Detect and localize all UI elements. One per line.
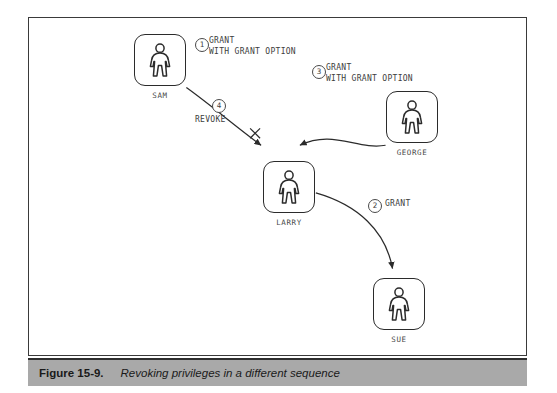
edge-label-george-to-larry-line2: WITH GRANT OPTION	[326, 73, 413, 84]
figure-number: Figure 15-9.	[39, 367, 104, 379]
node-larry[interactable]	[263, 161, 315, 213]
revoke-strike-icon	[250, 128, 260, 138]
edge-label-revoke: REVOKE	[195, 114, 226, 125]
node-george[interactable]	[386, 91, 438, 143]
node-label-larry: LARRY	[234, 218, 344, 227]
step-badge-2: 2	[368, 199, 382, 213]
edge-label-sam-to-larry-line1: GRANT	[209, 35, 235, 46]
person-icon	[386, 287, 412, 321]
step-badge-3: 3	[312, 65, 326, 79]
node-label-george: GEORGE	[357, 148, 467, 157]
node-label-sam: SAM	[105, 91, 215, 100]
person-icon	[399, 100, 425, 134]
figure-caption-bar: Figure 15-9. Revoking privileges in a di…	[28, 358, 527, 386]
figure-title: Revoking privileges in a different seque…	[121, 367, 340, 379]
node-sue[interactable]	[373, 278, 425, 330]
edge-label-larry-to-sue: GRANT	[385, 198, 411, 209]
figure-frame: SAM GEORGE LARRY SUE 1 GRANT WITH G	[28, 17, 527, 356]
edge-label-george-to-larry-line1: GRANT	[326, 62, 352, 73]
person-icon	[276, 170, 302, 204]
edge-label-sam-to-larry-line2: WITH GRANT OPTION	[209, 46, 296, 57]
connector-george-to-larry	[300, 139, 386, 146]
person-icon	[147, 43, 173, 77]
node-label-sue: SUE	[344, 335, 454, 344]
node-sam[interactable]	[134, 34, 186, 86]
step-badge-1: 1	[195, 38, 209, 52]
figure-page: SAM GEORGE LARRY SUE 1 GRANT WITH G	[0, 0, 557, 393]
step-badge-4: 4	[212, 99, 226, 113]
